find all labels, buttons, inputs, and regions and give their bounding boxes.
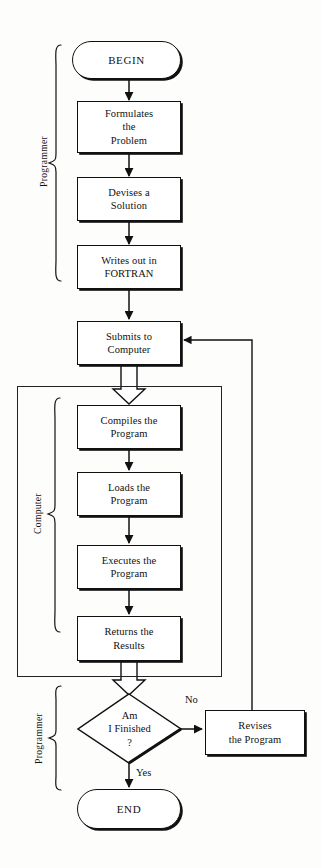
node-executes-the-program[interactable]: Executes the Program xyxy=(77,545,181,589)
node-executes-line-2: Program xyxy=(111,567,148,580)
node-begin-label: BEGIN xyxy=(108,53,145,67)
node-revises-the-program[interactable]: Revises the Program xyxy=(205,710,305,755)
node-devises-line-2: Solution xyxy=(111,199,147,212)
node-formulates-the-problem[interactable]: Formulates the Problem xyxy=(77,101,181,153)
node-compiles-line-2: Program xyxy=(111,427,148,440)
node-loads-the-program[interactable]: Loads the Program xyxy=(77,472,181,516)
node-compiles-line-1: Compiles the xyxy=(101,414,158,427)
node-formulates-line-1: Formulates xyxy=(105,107,153,120)
node-executes-line-1: Executes the xyxy=(102,554,157,567)
node-submits-line-2: Computer xyxy=(108,343,151,356)
node-end-label: END xyxy=(117,802,141,816)
swimlane-label-programmer-bottom: Programmer xyxy=(33,695,44,783)
node-returns-line-2: Results xyxy=(113,639,145,652)
edge-label-yes: Yes xyxy=(136,767,151,778)
node-formulates-line-2: the xyxy=(122,120,135,133)
node-compiles-the-program[interactable]: Compiles the Program xyxy=(77,405,181,449)
node-formulates-line-3: Problem xyxy=(111,134,147,147)
node-devises-a-solution[interactable]: Devises a Solution xyxy=(77,177,181,221)
node-revises-line-1: Revises xyxy=(238,719,271,732)
node-begin[interactable]: BEGIN xyxy=(72,41,181,79)
node-writes-out-in-fortran[interactable]: Writes out in FORTRAN xyxy=(77,245,181,289)
node-revises-line-2: the Program xyxy=(229,733,282,746)
swimlane-label-computer: Computer xyxy=(32,470,43,558)
node-devises-line-1: Devises a xyxy=(108,186,149,199)
node-submits-line-1: Submits to xyxy=(106,330,152,343)
swimlane-label-programmer-top: Programmer xyxy=(38,118,49,206)
node-loads-line-1: Loads the xyxy=(108,481,150,494)
node-end[interactable]: END xyxy=(77,789,181,829)
flowchart-canvas: BEGIN Formulates the Problem Devises a S… xyxy=(0,0,321,868)
node-writes-line-2: FORTRAN xyxy=(104,267,153,280)
node-submits-to-computer[interactable]: Submits to Computer xyxy=(77,321,181,365)
node-loads-line-2: Program xyxy=(111,494,148,507)
edge-label-no: No xyxy=(185,694,198,705)
node-returns-line-1: Returns the xyxy=(104,625,153,638)
node-returns-the-results[interactable]: Returns the Results xyxy=(77,616,181,661)
node-writes-line-1: Writes out in xyxy=(101,254,157,267)
decision-diamond-shape xyxy=(78,694,181,763)
